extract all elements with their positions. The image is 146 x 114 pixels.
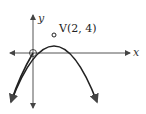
y-axis-label: y <box>37 12 45 25</box>
x-axis-label: x <box>133 46 140 59</box>
vertex-label: V(2, 4) <box>58 22 97 35</box>
vertex-point <box>52 33 56 37</box>
parabola-curve <box>11 46 97 102</box>
parabola-diagram: V(2, 4) x y <box>0 0 146 114</box>
